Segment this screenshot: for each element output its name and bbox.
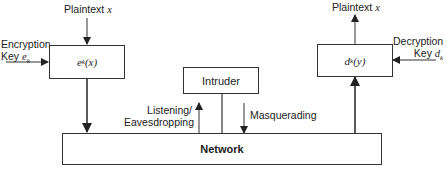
encryption-key-line1: Encryption (1, 38, 51, 50)
decryption-key-line2: Key (414, 47, 432, 59)
decryption-key-label: Decryption Key dk (393, 35, 443, 64)
plaintext-out-var: x (375, 2, 380, 13)
decryption-fn-arg: (y) (353, 55, 365, 67)
intruder-box: Intruder (183, 67, 259, 94)
decryption-key-line1: Decryption (393, 35, 443, 47)
plaintext-input-label: Plaintext x (64, 3, 112, 16)
encryption-key-sub: k (27, 57, 30, 65)
plaintext-output-label: Plaintext x (332, 1, 380, 14)
decryption-key-sub: k (440, 54, 443, 62)
listening-line1: Listening/ (124, 104, 192, 116)
masquerading-label: Masquerading (250, 109, 317, 121)
encryption-key-line2: Key (1, 50, 19, 62)
network-box: Network (62, 133, 382, 165)
encryption-key-label: Encryption Key ek (1, 38, 51, 67)
decryption-box: dk(y) (317, 44, 393, 77)
network-label: Network (200, 143, 243, 155)
plaintext-text: Plaintext (64, 3, 104, 15)
encryption-fn-arg: (x) (85, 56, 97, 68)
intruder-label: Intruder (202, 75, 240, 87)
encryption-box: ek(x) (49, 45, 125, 79)
plaintext-out-text: Plaintext (332, 1, 372, 13)
listening-label: Listening/ Eavesdropping (124, 104, 192, 128)
listening-line2: Eavesdropping (124, 116, 192, 128)
plaintext-var: x (107, 4, 112, 15)
